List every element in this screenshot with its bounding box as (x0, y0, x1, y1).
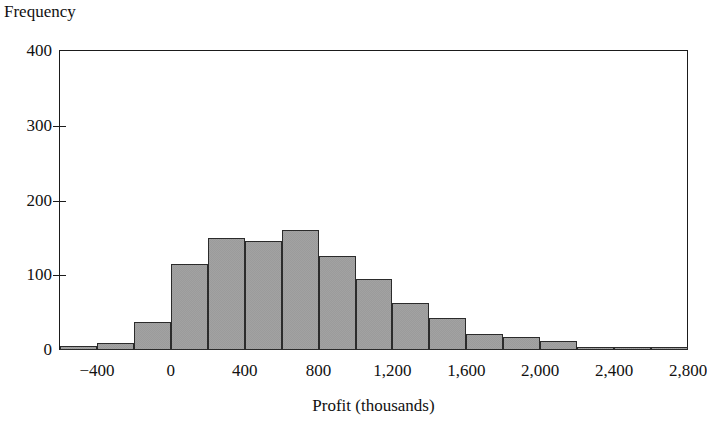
x-tick-label: 0 (167, 361, 176, 380)
x-tick-label: −400 (79, 361, 114, 380)
x-tick-label: 2,800 (669, 361, 707, 380)
x-tick-label: 400 (232, 361, 258, 380)
x-tick-label: 2,000 (521, 361, 559, 380)
x-tick-label: 800 (306, 361, 332, 380)
x-tick-label: 1,600 (447, 361, 485, 380)
x-tick-label: 2,400 (595, 361, 633, 380)
x-axis-title: Profit (thousands) (59, 396, 688, 416)
x-tick-label: 1,200 (373, 361, 411, 380)
